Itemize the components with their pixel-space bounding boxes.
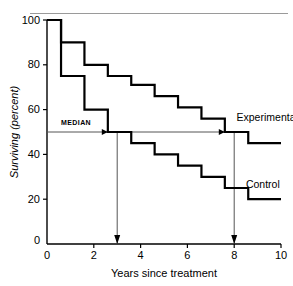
dropline-arrowhead: [231, 235, 237, 244]
y-tick-label: 0: [34, 234, 40, 246]
x-axis-tick-labels: 0246810: [44, 249, 287, 261]
series-label-experimental: Experimental: [237, 111, 293, 123]
series-label-control: Control: [246, 178, 280, 190]
x-axis-title: Years since treatment: [111, 267, 217, 279]
y-axis-title: Surviving (percent): [8, 86, 20, 179]
y-tick-label: 80: [28, 58, 40, 70]
y-tick-label: 60: [28, 103, 40, 115]
dropline-arrowhead: [114, 235, 120, 244]
series-step-line: [47, 20, 281, 199]
series-inline-labels: ExperimentalControl: [237, 111, 293, 190]
x-tick-label: 0: [44, 249, 50, 261]
x-tick-label: 4: [138, 249, 144, 261]
y-tick-label: 100: [22, 14, 40, 26]
x-tick-label: 8: [231, 249, 237, 261]
median-reference-line: [47, 129, 225, 135]
survival-curve-chart: 020406080100 0246810 ExperimentalControl…: [0, 0, 293, 286]
x-tick-label: 2: [91, 249, 97, 261]
figure-container: 020406080100 0246810 ExperimentalControl…: [0, 0, 293, 286]
x-tick-label: 6: [184, 249, 190, 261]
survival-curves: [47, 20, 281, 199]
y-axis-tick-labels: 020406080100: [22, 14, 40, 246]
x-tick-label: 10: [275, 249, 287, 261]
y-tick-label: 40: [28, 148, 40, 160]
median-droplines: [114, 132, 237, 244]
y-tick-label: 20: [28, 193, 40, 205]
median-label: MEDIAN: [61, 119, 91, 126]
figure-top-rule: [30, 13, 288, 14]
